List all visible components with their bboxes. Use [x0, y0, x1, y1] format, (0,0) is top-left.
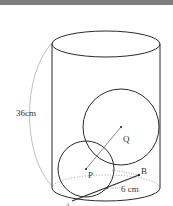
label-p: P [88, 170, 93, 180]
label-q: Q [123, 134, 130, 144]
tangent-point-dot [106, 187, 108, 189]
height-label: 36cm [16, 108, 36, 118]
distance-label: 6 cm [121, 184, 139, 194]
cylinder-diagram: 36cm Q P B A 6 cm [0, 0, 173, 206]
label-b: B [141, 166, 147, 176]
cylinder-top-ellipse [52, 31, 160, 57]
point-q-dot [120, 126, 122, 128]
point-p-dot [85, 168, 87, 170]
label-a: A [66, 202, 70, 206]
point-b-dot [138, 174, 140, 176]
dotted-line-to-b [112, 170, 139, 175]
